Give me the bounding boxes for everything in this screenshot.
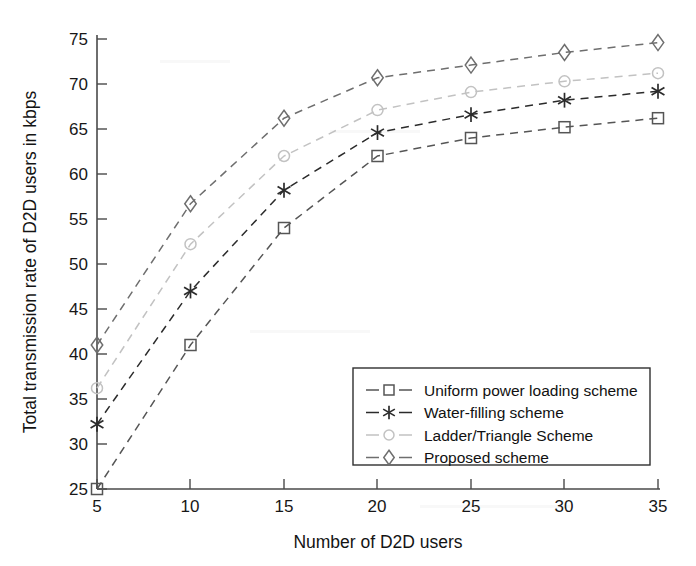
legend-label: Uniform power loading scheme (424, 382, 638, 399)
x-tick-label: 5 (92, 497, 101, 516)
x-axis-title: Number of D2D users (293, 532, 462, 552)
series-3 (91, 35, 663, 353)
y-tick-label: 70 (69, 75, 88, 94)
y-tick-label: 65 (69, 120, 88, 139)
legend-label: Water-filling scheme (424, 404, 564, 421)
x-tick-label: 10 (181, 497, 200, 516)
legend: Uniform power loading schemeWater-fillin… (353, 368, 650, 466)
y-tick-label: 35 (69, 390, 88, 409)
series-2 (92, 68, 664, 394)
y-tick-label: 55 (69, 210, 88, 229)
x-tick-label: 20 (368, 497, 387, 516)
x-tick-label: 25 (462, 497, 481, 516)
series-line (97, 43, 658, 345)
series-line (97, 73, 658, 388)
y-tick-label: 75 (69, 30, 88, 49)
chart-figure: 75 70 65 60 55 50 45 40 35 30 25 5 10 15 (0, 0, 696, 566)
y-axis-tick-labels: 75 70 65 60 55 50 45 40 35 30 25 (69, 30, 88, 499)
data-point-asterisk-marker (278, 183, 291, 198)
y-tick-label: 30 (69, 435, 88, 454)
x-tick-label: 35 (649, 497, 668, 516)
y-tick-label: 25 (69, 480, 88, 499)
line-chart: 75 70 65 60 55 50 45 40 35 30 25 5 10 15 (0, 0, 696, 566)
y-axis-title: Total transmission rate of D2D users in … (20, 91, 40, 434)
y-tick-label: 60 (69, 165, 88, 184)
x-tick-label: 30 (555, 497, 574, 516)
y-tick-label: 45 (69, 300, 88, 319)
y-tick-label: 40 (69, 345, 88, 364)
legend-label: Proposed scheme (424, 449, 549, 466)
x-axis-tick-labels: 5 10 15 20 25 30 35 (92, 497, 667, 516)
x-axis-ticks (97, 479, 658, 489)
x-tick-label: 15 (275, 497, 294, 516)
legend-label: Ladder/Triangle Scheme (424, 427, 593, 444)
y-tick-label: 50 (69, 255, 88, 274)
